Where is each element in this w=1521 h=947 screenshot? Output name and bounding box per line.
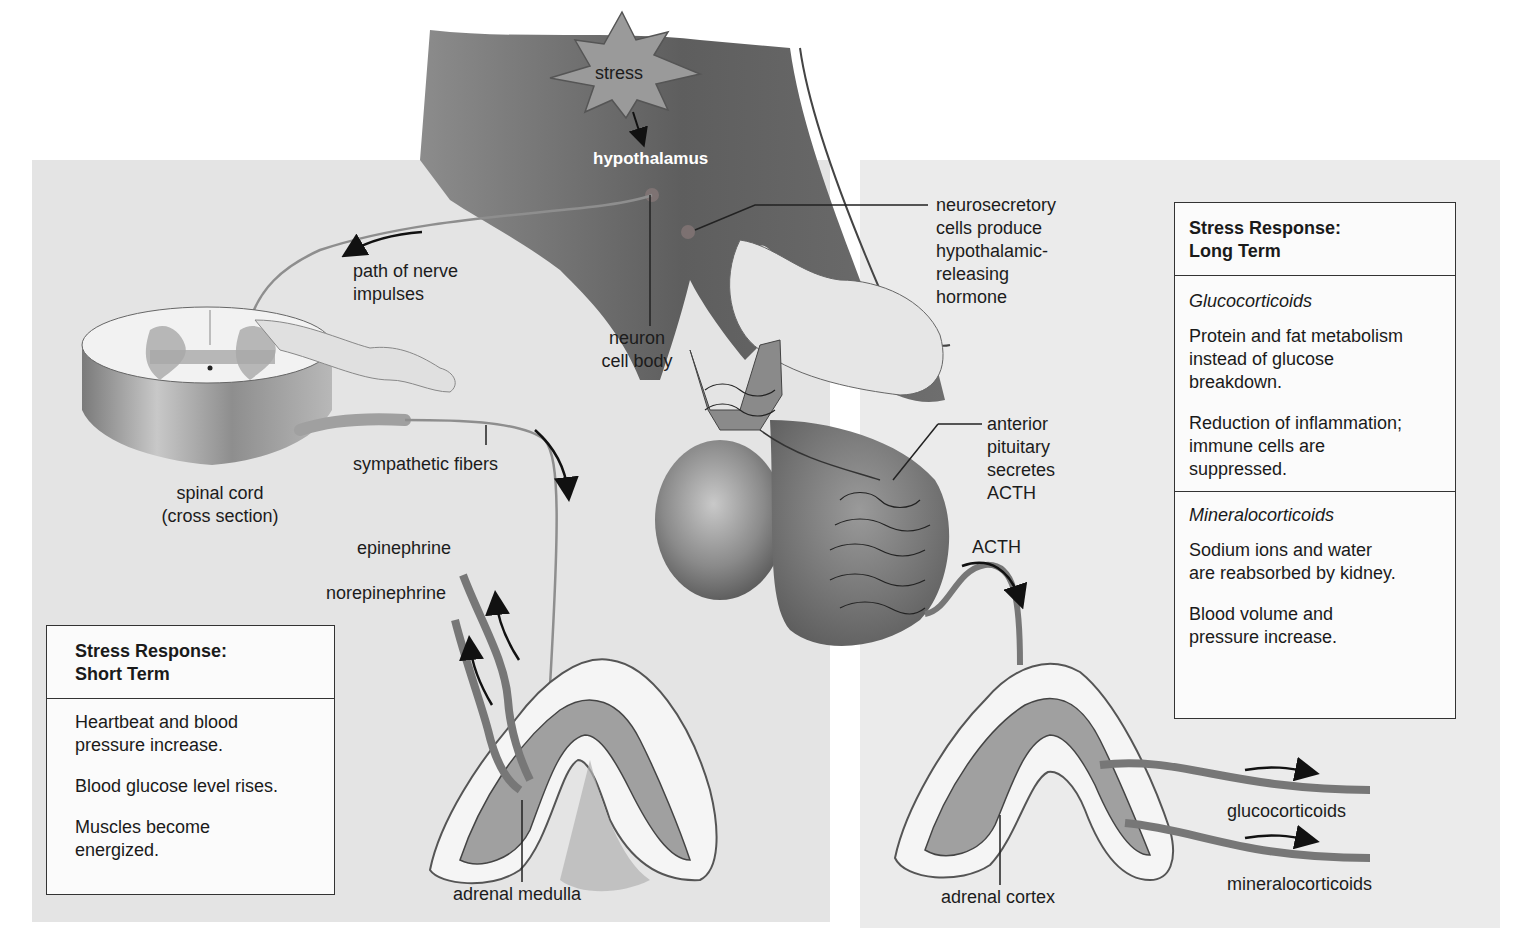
label-hypothalamus: hypothalamus — [593, 147, 708, 170]
adrenal-gland-right — [895, 664, 1173, 880]
label-anterior-pituitary: anterior pituitary secretes ACTH — [987, 413, 1055, 505]
long-term-response-box: Stress Response: Long Term Glucocorticoi… — [1174, 202, 1456, 719]
sympathetic-arrow-icon — [535, 430, 568, 492]
long-term-item: Sodium ions and water are reabsorbed by … — [1189, 539, 1441, 585]
short-term-effects: Heartbeat and blood pressure increase. B… — [47, 699, 334, 874]
label-mineralocorticoids: mineralocorticoids — [1227, 873, 1372, 896]
glucocorticoids-heading: Glucocorticoids — [1189, 290, 1441, 313]
long-term-item: Protein and fat metabolism instead of gl… — [1189, 325, 1441, 394]
short-term-title: Stress Response: Short Term — [47, 626, 334, 699]
label-acth: ACTH — [972, 536, 1021, 559]
long-term-item: Blood volume and pressure increase. — [1189, 603, 1441, 649]
label-adrenal-medulla: adrenal medulla — [453, 883, 581, 906]
long-term-title: Stress Response: Long Term — [1175, 203, 1455, 276]
mineralocorticoids-section: Mineralocorticoids Sodium ions and water… — [1175, 491, 1455, 661]
glucocorticoids-section: Glucocorticoids Protein and fat metaboli… — [1175, 276, 1455, 491]
mineralocorticoids-arrow-icon — [1245, 835, 1310, 840]
label-sympathetic-fibers: sympathetic fibers — [353, 453, 498, 476]
nerve-impulse-arrow-icon — [350, 232, 422, 252]
short-term-item: Muscles become energized. — [75, 816, 320, 862]
glucocorticoids-arrow-icon — [1245, 767, 1310, 772]
short-term-response-box: Stress Response: Short Term Heartbeat an… — [46, 625, 335, 895]
long-term-item: Reduction of inflammation; immune cells … — [1189, 412, 1441, 481]
label-stress: stress — [595, 62, 643, 85]
label-norepinephrine: norepinephrine — [326, 582, 446, 605]
label-glucocorticoids: glucocorticoids — [1227, 800, 1346, 823]
label-neuron-cell-body: neuron cell body — [592, 327, 682, 373]
label-epinephrine: epinephrine — [357, 537, 451, 560]
label-neurosecretory-cells: neurosecretory cells produce hypothalami… — [936, 194, 1056, 309]
mineralocorticoids-heading: Mineralocorticoids — [1189, 504, 1441, 527]
label-path-of-nerve-impulses: path of nerve impulses — [353, 260, 458, 306]
label-spinal-cord: spinal cord (cross section) — [140, 482, 300, 528]
short-term-item: Blood glucose level rises. — [75, 775, 320, 798]
short-term-item: Heartbeat and blood pressure increase. — [75, 711, 320, 757]
label-adrenal-cortex: adrenal cortex — [941, 886, 1055, 909]
